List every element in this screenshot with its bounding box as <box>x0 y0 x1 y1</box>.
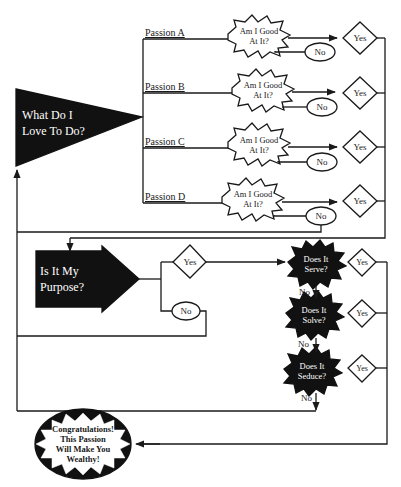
solve-yes-label: Yes <box>356 309 368 318</box>
good-at-it-text-d: Am I Good At It? <box>228 190 278 209</box>
main-question-line-2: Love To Do? <box>22 123 112 139</box>
yes-label-b: Yes <box>353 89 366 98</box>
result-line-4: Wealthy! <box>50 454 116 464</box>
no-label-c: No <box>317 158 328 167</box>
solve-line-2: Solve? <box>289 315 339 325</box>
yes-label-c: Yes <box>353 143 366 152</box>
result-text: Congratulations! This Passion Will Make … <box>50 424 116 464</box>
purpose-line-1: Is It My <box>40 263 110 279</box>
good-at-it-text-b: Am I Good At It? <box>238 81 288 100</box>
passion-a-label: Passion A <box>145 28 185 38</box>
seduce-line-2: Seduce? <box>287 371 337 381</box>
yes-label-a: Yes <box>353 34 366 43</box>
no-label-d: No <box>316 212 327 221</box>
check-line-2: At It? <box>234 36 284 46</box>
good-at-it-text-c: Am I Good At It? <box>234 136 284 155</box>
result-line-3: Will Make You <box>50 444 116 454</box>
yes-label-d: Yes <box>353 197 366 206</box>
passion-c-label: Passion C <box>145 137 185 147</box>
serve-line-2: Serve? <box>291 264 341 274</box>
seduce-text: Does It Seduce? <box>287 362 337 381</box>
main-question-line-1: What Do I <box>22 107 112 123</box>
solve-text: Does It Solve? <box>289 306 339 325</box>
purpose-no-label: No <box>181 307 192 316</box>
result-line-1: Congratulations! <box>50 424 116 434</box>
seduce-no-label: No <box>301 394 312 403</box>
serve-no-label: No <box>299 288 310 297</box>
no-label-b: No <box>317 103 328 112</box>
what-do-i-love-text: What Do I Love To Do? <box>22 107 112 139</box>
flowchart-canvas <box>0 0 401 487</box>
passion-d-label: Passion D <box>145 192 185 202</box>
solve-no-label: No <box>298 340 309 349</box>
check-line-2: At It? <box>228 199 278 209</box>
purpose-yes-label: Yes <box>183 258 196 267</box>
check-line-2: At It? <box>234 145 284 155</box>
good-at-it-text-a: Am I Good At It? <box>234 27 284 46</box>
no-label-a: No <box>315 48 326 57</box>
purpose-line-2: Purpose? <box>40 279 110 295</box>
check-line-2: At It? <box>238 90 288 100</box>
purpose-text: Is It My Purpose? <box>40 263 110 295</box>
result-line-2: This Passion <box>50 434 116 444</box>
seduce-yes-label: Yes <box>356 364 368 373</box>
serve-text: Does It Serve? <box>291 255 341 274</box>
passion-b-label: Passion B <box>145 82 185 92</box>
serve-yes-label: Yes <box>356 258 368 267</box>
